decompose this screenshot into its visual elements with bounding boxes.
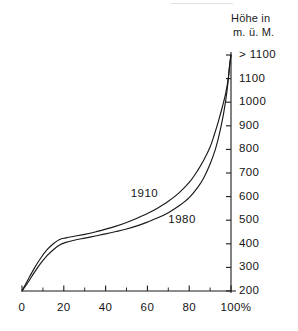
- x-tick-label: 60: [127, 301, 167, 313]
- x-axis-ticks: [22, 286, 231, 292]
- series-annotation-1910: 1910: [131, 187, 159, 199]
- y-tick-label: > 1100: [239, 48, 276, 60]
- axes: [22, 52, 236, 293]
- y-tick-label: 200: [239, 284, 259, 296]
- y-tick-label: 700: [239, 166, 259, 178]
- y-tick-label: 300: [239, 260, 259, 272]
- series-line-1910: [22, 55, 231, 291]
- y-tick-label: 400: [239, 237, 259, 249]
- x-tick-label: 80: [169, 301, 209, 313]
- x-tick-label: 40: [86, 301, 126, 313]
- chart-figure: Höhe in m. ü. M. 20030040050060070080090…: [0, 0, 298, 331]
- y-tick-label: 800: [239, 142, 259, 154]
- data-series-group: [22, 55, 231, 291]
- x-tick-label: 20: [44, 301, 84, 313]
- x-tick-label: 100%: [216, 301, 256, 313]
- y-tick-label: 900: [239, 119, 259, 131]
- y-tick-label: 500: [239, 213, 259, 225]
- series-line-1980: [22, 55, 231, 291]
- series-annotation-1980: 1980: [168, 213, 196, 225]
- y-tick-label: 1000: [239, 95, 266, 107]
- y-tick-label: 600: [239, 190, 259, 202]
- x-tick-label: 0: [2, 301, 42, 313]
- y-tick-label: 1100: [239, 72, 265, 84]
